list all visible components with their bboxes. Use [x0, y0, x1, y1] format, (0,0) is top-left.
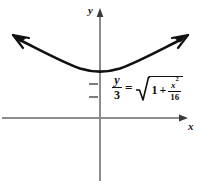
radicand-operator: +	[159, 84, 166, 96]
equation-label: y 3 = 1 + x2 16	[112, 74, 183, 101]
x-axis-label: x	[188, 121, 194, 132]
equals-sign: =	[125, 81, 132, 94]
square-root-expression: 1 + x2 16	[136, 75, 183, 101]
lhs-denominator: 3	[112, 88, 122, 101]
x-axis-arrow-icon	[179, 115, 188, 122]
equation-lhs-fraction: y 3	[112, 74, 122, 101]
radicand-constant: 1	[151, 84, 157, 96]
y-axis-label: y	[88, 5, 93, 16]
radical-sign-icon	[136, 75, 150, 101]
radicand-denominator: 16	[168, 92, 181, 102]
radicand-group: 1 + x2 16	[149, 76, 183, 102]
y-axis-arrow-icon	[97, 8, 104, 17]
radicand-numerator: x2	[169, 79, 181, 91]
radicand-fraction: x2 16	[168, 79, 181, 102]
lhs-numerator: y	[112, 74, 121, 87]
graph-figure: y x y 3 = 1 + x2 16	[0, 0, 201, 181]
radicand-numerator-exponent: 2	[175, 75, 178, 82]
